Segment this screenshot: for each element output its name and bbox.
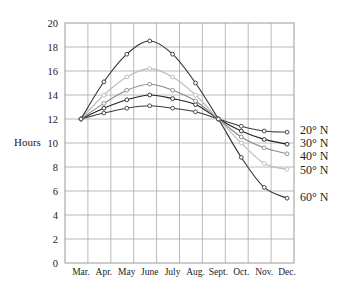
data-point-marker	[148, 67, 152, 71]
y-axis-ticks: 02468101214161820	[48, 18, 59, 269]
y-tick-label: 10	[48, 138, 59, 149]
data-point-marker	[262, 138, 266, 142]
data-point-marker	[79, 117, 83, 121]
data-point-marker	[125, 88, 129, 92]
legend-label: 30° N	[300, 136, 329, 150]
x-tick-label: Nov.	[255, 267, 273, 277]
data-point-marker	[102, 111, 106, 115]
data-point-marker	[125, 106, 129, 110]
y-tick-label: 18	[48, 42, 59, 53]
y-tick-label: 16	[48, 66, 59, 77]
data-point-marker	[194, 93, 198, 97]
x-tick-label: June	[141, 267, 158, 277]
data-point-marker	[171, 97, 175, 101]
data-point-marker	[171, 52, 175, 56]
legend: 20° N30° N40° N50° N60° N	[300, 123, 329, 204]
y-tick-label: 20	[48, 18, 59, 29]
data-point-marker	[148, 104, 152, 108]
data-point-marker	[285, 196, 289, 200]
x-tick-label: July	[165, 267, 181, 277]
data-point-marker	[102, 106, 106, 110]
data-point-marker	[217, 117, 221, 121]
grid-lines	[65, 23, 294, 263]
y-tick-label: 12	[48, 114, 59, 125]
data-point-marker	[171, 75, 175, 79]
data-point-marker	[285, 168, 289, 172]
x-axis-ticks: Mar.Apr.MayJuneJulyAug.Sept.Oct.Nov.Dec.	[72, 267, 296, 277]
data-point-marker	[285, 142, 289, 146]
data-point-marker	[239, 135, 243, 139]
x-tick-label: Apr.	[96, 267, 113, 277]
data-point-marker	[194, 110, 198, 114]
x-tick-label: May	[118, 267, 136, 277]
data-point-marker	[239, 141, 243, 145]
y-tick-label: 6	[53, 186, 58, 197]
daylight-hours-chart: 02468101214161820 Mar.Apr.MayJuneJulyAug…	[0, 0, 338, 290]
legend-label: 50° N	[300, 163, 329, 177]
data-point-marker	[285, 152, 289, 156]
y-axis-label: Hours	[14, 136, 41, 148]
data-point-marker	[171, 88, 175, 92]
x-tick-label: Sept.	[209, 267, 228, 277]
data-point-marker	[239, 156, 243, 160]
legend-label: 60° N	[300, 190, 329, 204]
y-tick-label: 14	[48, 90, 59, 101]
y-tick-label: 4	[53, 210, 59, 221]
series-line	[81, 95, 287, 144]
legend-label: 20° N	[300, 123, 329, 137]
data-point-marker	[194, 81, 198, 85]
data-point-marker	[148, 82, 152, 86]
x-tick-label: Oct.	[233, 267, 249, 277]
data-point-marker	[125, 52, 129, 56]
x-tick-label: Mar.	[72, 267, 90, 277]
data-point-marker	[262, 162, 266, 166]
data-point-marker	[102, 93, 106, 97]
data-point-marker	[262, 129, 266, 133]
y-tick-label: 8	[53, 162, 58, 173]
y-tick-label: 0	[53, 258, 58, 269]
legend-label: 40° N	[300, 149, 329, 163]
data-point-marker	[102, 80, 106, 84]
x-tick-label: Dec.	[278, 267, 296, 277]
series-line	[81, 41, 287, 198]
data-point-marker	[171, 106, 175, 110]
data-point-marker	[285, 130, 289, 134]
data-point-marker	[194, 99, 198, 103]
data-point-marker	[262, 186, 266, 190]
data-point-marker	[148, 39, 152, 43]
data-point-marker	[125, 75, 129, 79]
y-tick-label: 2	[53, 234, 58, 245]
data-point-marker	[148, 93, 152, 97]
data-point-marker	[262, 146, 266, 150]
data-point-marker	[239, 124, 243, 128]
x-tick-label: Aug.	[186, 267, 205, 277]
data-point-marker	[125, 98, 129, 102]
data-point-marker	[102, 102, 106, 106]
data-point-marker	[239, 129, 243, 133]
